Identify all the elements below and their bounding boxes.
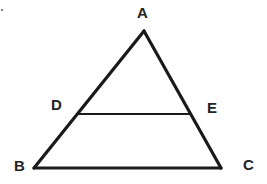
label-e: E bbox=[207, 99, 217, 116]
label-a: A bbox=[137, 4, 148, 21]
label-b: B bbox=[14, 157, 25, 174]
label-c: C bbox=[243, 156, 254, 173]
triangle-diagram: A B C D E bbox=[0, 0, 267, 184]
label-d: D bbox=[51, 96, 62, 113]
stray-dot bbox=[1, 9, 3, 11]
